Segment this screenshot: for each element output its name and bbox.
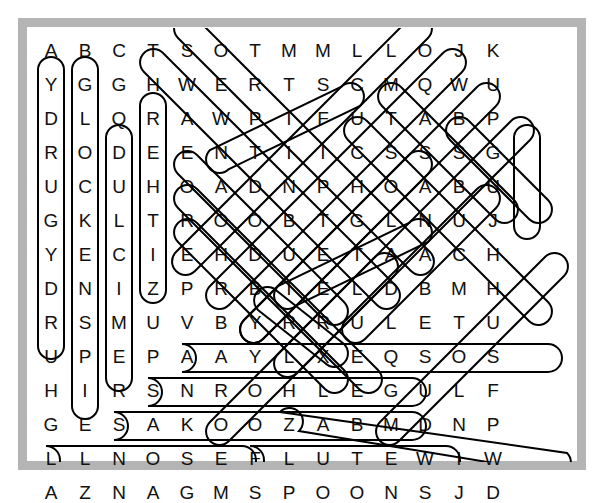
grid-cell[interactable]: E bbox=[308, 274, 338, 304]
grid-cell[interactable]: T bbox=[342, 240, 372, 270]
grid-cell[interactable]: E bbox=[138, 138, 168, 168]
grid-cell[interactable]: N bbox=[206, 138, 236, 168]
grid-cell[interactable]: W bbox=[478, 444, 508, 474]
grid-cell[interactable]: O bbox=[206, 36, 236, 66]
grid-cell[interactable]: J bbox=[444, 478, 474, 503]
grid-cell[interactable]: T bbox=[138, 36, 168, 66]
grid-cell[interactable]: T bbox=[444, 308, 474, 338]
grid-cell[interactable]: I bbox=[70, 376, 100, 406]
grid-cell[interactable]: A bbox=[376, 240, 406, 270]
grid-cell[interactable]: E bbox=[172, 240, 202, 270]
grid-cell[interactable]: E bbox=[172, 138, 202, 168]
grid-cell[interactable]: K bbox=[478, 36, 508, 66]
grid-cell[interactable]: N bbox=[172, 376, 202, 406]
grid-cell[interactable]: R bbox=[138, 104, 168, 134]
grid-cell[interactable]: O bbox=[172, 172, 202, 202]
grid-cell[interactable]: O bbox=[342, 478, 372, 503]
grid-cell[interactable]: O bbox=[410, 36, 440, 66]
grid-cell[interactable]: R bbox=[206, 274, 236, 304]
grid-cell[interactable]: A bbox=[206, 172, 236, 202]
grid-cell[interactable]: S bbox=[376, 138, 406, 168]
grid-cell[interactable]: B bbox=[444, 104, 474, 134]
grid-cell[interactable]: D bbox=[240, 240, 270, 270]
grid-cell[interactable]: Y bbox=[36, 240, 66, 270]
grid-cell[interactable]: L bbox=[274, 342, 304, 372]
grid-cell[interactable]: G bbox=[342, 206, 372, 236]
grid-cell[interactable]: E bbox=[104, 342, 134, 372]
grid-cell[interactable]: D bbox=[36, 104, 66, 134]
grid-cell[interactable]: F bbox=[308, 104, 338, 134]
grid-cell[interactable]: N bbox=[376, 478, 406, 503]
grid-cell[interactable]: I bbox=[274, 104, 304, 134]
grid-cell[interactable]: S bbox=[104, 410, 134, 440]
grid-cell[interactable]: H bbox=[342, 172, 372, 202]
grid-cell[interactable]: I bbox=[274, 138, 304, 168]
grid-cell[interactable]: W bbox=[410, 444, 440, 474]
grid-cell[interactable]: P bbox=[172, 274, 202, 304]
grid-cell[interactable]: U bbox=[342, 308, 372, 338]
grid-cell[interactable]: A bbox=[410, 172, 440, 202]
grid-cell[interactable]: S bbox=[70, 308, 100, 338]
grid-cell[interactable]: U bbox=[104, 172, 134, 202]
grid-cell[interactable]: R bbox=[172, 206, 202, 236]
grid-cell[interactable]: T bbox=[138, 206, 168, 236]
grid-cell[interactable]: S bbox=[478, 342, 508, 372]
grid-cell[interactable]: W bbox=[444, 70, 474, 100]
grid-cell[interactable]: U bbox=[444, 206, 474, 236]
grid-cell[interactable]: R bbox=[308, 308, 338, 338]
grid-cell[interactable]: B bbox=[342, 410, 372, 440]
grid-cell[interactable]: A bbox=[172, 104, 202, 134]
grid-cell[interactable]: S bbox=[410, 478, 440, 503]
grid-cell[interactable]: W bbox=[172, 70, 202, 100]
grid-cell[interactable]: L bbox=[444, 376, 474, 406]
grid-cell[interactable]: T bbox=[240, 138, 270, 168]
grid-cell[interactable]: A bbox=[138, 410, 168, 440]
grid-cell[interactable]: H bbox=[478, 274, 508, 304]
grid-cell[interactable]: E bbox=[206, 444, 236, 474]
grid-cell[interactable]: B bbox=[206, 308, 236, 338]
grid-cell[interactable]: L bbox=[36, 444, 66, 474]
grid-cell[interactable]: P bbox=[138, 342, 168, 372]
grid-cell[interactable]: U bbox=[138, 308, 168, 338]
grid-cell[interactable]: L bbox=[376, 36, 406, 66]
grid-cell[interactable]: G bbox=[104, 70, 134, 100]
grid-cell[interactable]: O bbox=[376, 172, 406, 202]
grid-cell[interactable]: D bbox=[478, 478, 508, 503]
grid-cell[interactable]: U bbox=[342, 104, 372, 134]
grid-cell[interactable]: H bbox=[138, 70, 168, 100]
grid-cell[interactable]: K bbox=[172, 410, 202, 440]
grid-cell[interactable]: M bbox=[206, 478, 236, 503]
grid-cell[interactable]: R bbox=[36, 308, 66, 338]
grid-cell[interactable]: G bbox=[36, 206, 66, 236]
grid-cell[interactable]: W bbox=[206, 104, 236, 134]
grid-cell[interactable]: M bbox=[444, 274, 474, 304]
grid-cell[interactable]: L bbox=[308, 376, 338, 406]
grid-cell[interactable]: P bbox=[70, 342, 100, 372]
grid-cell[interactable]: H bbox=[138, 172, 168, 202]
grid-cell[interactable]: T bbox=[308, 206, 338, 236]
grid-cell[interactable]: A bbox=[36, 36, 66, 66]
grid-cell[interactable]: S bbox=[410, 342, 440, 372]
grid-cell[interactable]: G bbox=[376, 376, 406, 406]
grid-cell[interactable]: H bbox=[36, 376, 66, 406]
grid-cell[interactable]: A bbox=[138, 478, 168, 503]
grid-cell[interactable]: T bbox=[376, 104, 406, 134]
grid-cell[interactable]: E bbox=[308, 240, 338, 270]
grid-cell[interactable]: O bbox=[240, 376, 270, 406]
grid-cell[interactable]: H bbox=[206, 240, 236, 270]
grid-cell[interactable]: R bbox=[274, 308, 304, 338]
grid-cell[interactable]: Y bbox=[240, 342, 270, 372]
grid-cell[interactable]: M bbox=[104, 308, 134, 338]
grid-cell[interactable]: C bbox=[444, 240, 474, 270]
grid-cell[interactable]: K bbox=[70, 206, 100, 236]
grid-cell[interactable]: O bbox=[138, 444, 168, 474]
grid-cell[interactable]: E bbox=[70, 410, 100, 440]
grid-cell[interactable]: N bbox=[104, 444, 134, 474]
grid-cell[interactable]: M bbox=[376, 70, 406, 100]
grid-cell[interactable]: D bbox=[410, 410, 440, 440]
grid-cell[interactable]: U bbox=[274, 240, 304, 270]
grid-cell[interactable]: S bbox=[308, 70, 338, 100]
grid-cell[interactable]: I bbox=[308, 138, 338, 168]
grid-cell[interactable]: V bbox=[172, 308, 202, 338]
grid-cell[interactable]: Q bbox=[376, 342, 406, 372]
